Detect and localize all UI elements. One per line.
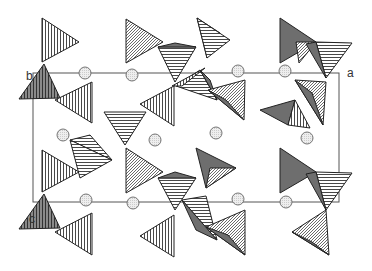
atom-circle xyxy=(232,193,244,205)
atom-circle xyxy=(232,65,244,77)
tetrahedron-face xyxy=(126,148,163,193)
tetrahedron-face xyxy=(140,215,174,257)
atom-circle xyxy=(149,134,161,146)
atom-circle xyxy=(280,196,292,208)
tetrahedron-face xyxy=(197,18,230,58)
atom-circle xyxy=(301,132,313,144)
axis-label-b: b xyxy=(26,69,33,83)
tetrahedron-face xyxy=(140,86,174,126)
tetrahedron-face xyxy=(42,18,79,62)
atom-circle xyxy=(79,67,91,79)
atom-circle xyxy=(127,197,139,209)
atom-circle xyxy=(210,127,222,139)
tetrahedron-face xyxy=(42,150,79,192)
tetrahedron-face xyxy=(55,82,92,123)
crystal-structure-diagram xyxy=(0,0,372,271)
tetrahedron-face xyxy=(104,112,146,145)
atom-circle xyxy=(57,129,69,141)
atom-circle xyxy=(279,65,291,77)
tetrahedron-face xyxy=(158,43,196,47)
tetrahedron-face xyxy=(158,172,196,178)
tetrahedron-face xyxy=(19,194,60,229)
axis-label-c: c xyxy=(29,212,35,226)
tetrahedron-face xyxy=(206,168,236,188)
tetrahedron-face xyxy=(292,210,329,255)
tetrahedron-face xyxy=(55,213,92,255)
tetrahedron-face xyxy=(280,148,316,193)
axis-label-a: a xyxy=(347,66,354,80)
atom-circle xyxy=(126,69,138,81)
atom-circle xyxy=(80,194,92,206)
tetrahedron-face xyxy=(126,19,163,63)
